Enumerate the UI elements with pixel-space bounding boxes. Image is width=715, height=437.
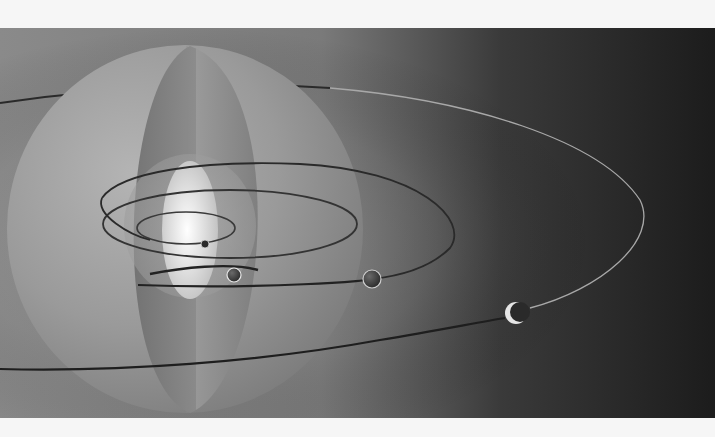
illustration: [0, 0, 715, 437]
planet-1: [201, 240, 209, 248]
planet-3: [363, 270, 381, 288]
celestial-spheres-artwork: [0, 0, 715, 437]
glowing-core: [162, 161, 218, 299]
planet-2: [227, 268, 241, 282]
